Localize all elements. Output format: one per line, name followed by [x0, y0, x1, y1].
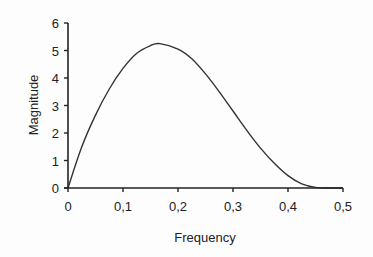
y-tick-label: 0 [52, 181, 59, 196]
magnitude-chart: 00,10,20,30,40,5 0123456 Frequency Magni… [0, 0, 373, 257]
y-tick-label: 1 [52, 154, 59, 169]
y-tick-label: 2 [52, 126, 59, 141]
y-tick-label: 4 [52, 71, 59, 86]
y-tick-label: 5 [52, 44, 59, 59]
x-tick-label: 0 [64, 199, 71, 214]
y-axis-ticks: 0123456 [52, 16, 68, 196]
y-tick-label: 3 [52, 99, 59, 114]
y-axis-title: Magnitude [26, 75, 41, 136]
x-axis-ticks: 00,10,20,30,40,5 [64, 188, 352, 214]
x-tick-label: 0,5 [334, 199, 352, 214]
x-tick-label: 0,3 [224, 199, 242, 214]
x-tick-label: 0,2 [169, 199, 187, 214]
axes [64, 23, 343, 188]
x-tick-label: 0,4 [279, 199, 297, 214]
magnitude-curve [68, 43, 343, 188]
y-tick-label: 6 [52, 16, 59, 31]
x-tick-label: 0,1 [114, 199, 132, 214]
x-axis-title: Frequency [174, 230, 236, 245]
